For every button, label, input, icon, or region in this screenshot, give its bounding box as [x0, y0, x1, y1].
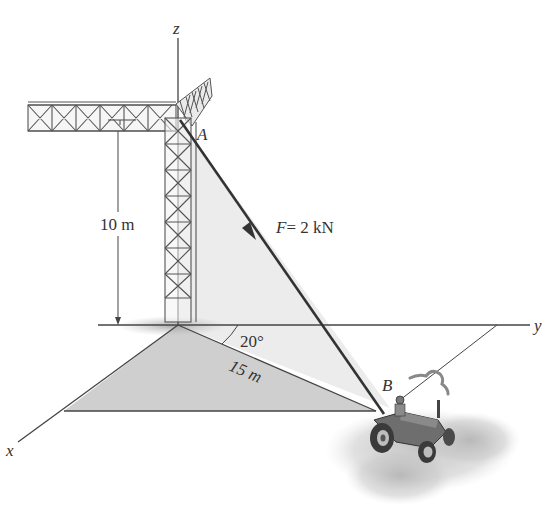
y-axis-label: y — [532, 316, 542, 335]
x-axis-label: x — [5, 441, 14, 460]
force-value: = 2 kN — [286, 218, 333, 237]
crane-jib — [28, 102, 176, 131]
crane-tower — [165, 118, 196, 322]
height-label: 10 m — [100, 215, 134, 234]
exhaust-smoke-icon — [410, 371, 448, 394]
b-projection-line — [400, 325, 497, 400]
point-a-label: A — [196, 125, 208, 144]
angle-label: 20° — [240, 332, 264, 351]
force-label: F= 2 kN — [275, 218, 334, 237]
force-symbol: F — [275, 218, 287, 237]
point-b-label: B — [382, 376, 393, 395]
diagram-canvas: z y x A B 10 m 20° 15 m F= 2 kN — [0, 0, 556, 514]
z-axis-label: z — [172, 19, 180, 38]
